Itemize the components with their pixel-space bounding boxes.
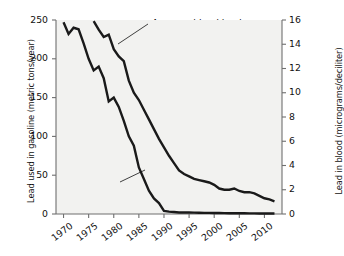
plot-background <box>56 20 282 214</box>
